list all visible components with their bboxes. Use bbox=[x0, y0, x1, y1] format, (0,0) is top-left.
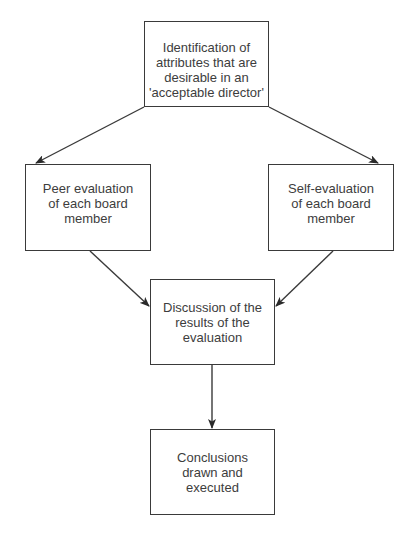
node-label: Peer evaluation of each board member bbox=[39, 165, 137, 226]
node-conclusions: Conclusions drawn and executed bbox=[150, 429, 275, 515]
node-discussion-of-results: Discussion of the results of the evaluat… bbox=[150, 279, 275, 365]
node-label: Self-evaluation of each board member bbox=[284, 165, 378, 226]
node-label: Conclusions drawn and executed bbox=[173, 430, 252, 495]
arrow-right-to-middle bbox=[276, 251, 333, 306]
node-label: Discussion of the results of the evaluat… bbox=[159, 280, 266, 345]
arrow-top-to-right bbox=[269, 107, 378, 163]
node-identify-attributes: Identification of attributes that are de… bbox=[144, 21, 269, 107]
node-label: Identification of attributes that are de… bbox=[145, 22, 268, 100]
node-self-evaluation: Self-evaluation of each board member bbox=[268, 164, 394, 251]
node-peer-evaluation: Peer evaluation of each board member bbox=[25, 164, 151, 251]
arrow-top-to-left bbox=[36, 107, 144, 163]
arrow-left-to-middle bbox=[90, 251, 149, 306]
flowchart-canvas: Identification of attributes that are de… bbox=[0, 0, 413, 537]
